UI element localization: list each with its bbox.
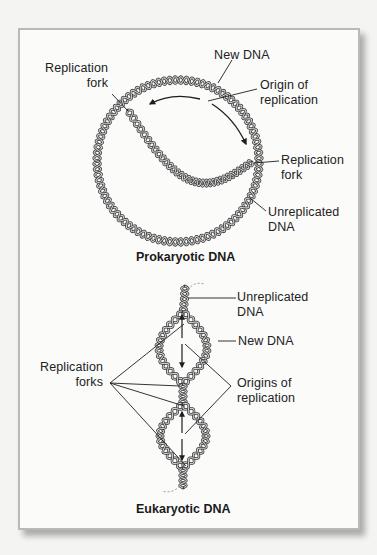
label-line: Replication [30,61,108,76]
label-line: fork [281,168,344,183]
label-line: Unreplicated [268,205,339,220]
label-replication-fork-right: Replication fork [281,153,344,183]
label-line: Origin of [260,78,318,93]
label-new-dna: New DNA [238,334,294,349]
label-origins-of-replication: Origins of replication [237,376,295,406]
dashed-end-top [188,283,204,290]
label-unreplicated-dna: Unreplicated DNA [237,290,308,320]
label-line: Replication [281,153,344,168]
leader-unreplicated [250,198,266,211]
prokaryotic-title: Prokaryotic DNA [136,250,235,264]
label-line: Replication [30,360,103,375]
leader-origin-2 [185,386,231,434]
label-unreplicated-dna: Unreplicated DNA [268,205,339,235]
label-line: DNA [237,305,308,320]
leader-fork-2 [110,383,180,386]
leader-new-dna [218,60,232,83]
label-replication-forks: Replication forks [30,360,103,390]
label-new-dna: New DNA [214,48,270,63]
label-line: DNA [268,220,339,235]
label-replication-fork-left: Replication fork [30,61,108,91]
eukaryotic-title: Eukaryotic DNA [136,502,230,516]
label-line: replication [260,93,318,108]
label-line: Unreplicated [237,290,308,305]
dna-helix-strands [94,77,263,488]
leader-fork-4 [110,383,186,466]
arrow-counterclockwise [150,96,200,104]
label-origin-of-replication: Origin of replication [260,78,318,108]
dashed-end-bottom [162,486,180,492]
label-line: fork [30,76,108,91]
label-line: Origins of [237,376,295,391]
label-line: forks [30,375,103,390]
label-line: replication [237,391,295,406]
